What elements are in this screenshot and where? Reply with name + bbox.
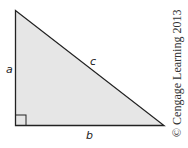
- label-a: a: [6, 63, 13, 76]
- label-b: b: [86, 129, 93, 142]
- label-c: c: [90, 55, 96, 68]
- triangle-diagram: a b c © Cengage Learning 2013: [0, 0, 188, 148]
- copyright-notice: © Cengage Learning 2013: [170, 10, 184, 137]
- right-triangle: [16, 11, 165, 126]
